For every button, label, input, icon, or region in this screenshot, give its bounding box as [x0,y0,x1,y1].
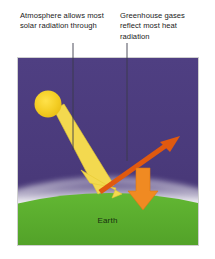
greenhouse-effect-figure: Atmosphere allows most solar radiation t… [0,0,215,259]
earth-label: Earth [0,216,215,225]
sun-circle [35,91,62,118]
caption-greenhouse-gases: Greenhouse gases reflect most heat radia… [120,11,208,42]
caption-solar-radiation: Atmosphere allows most solar radiation t… [20,11,106,32]
